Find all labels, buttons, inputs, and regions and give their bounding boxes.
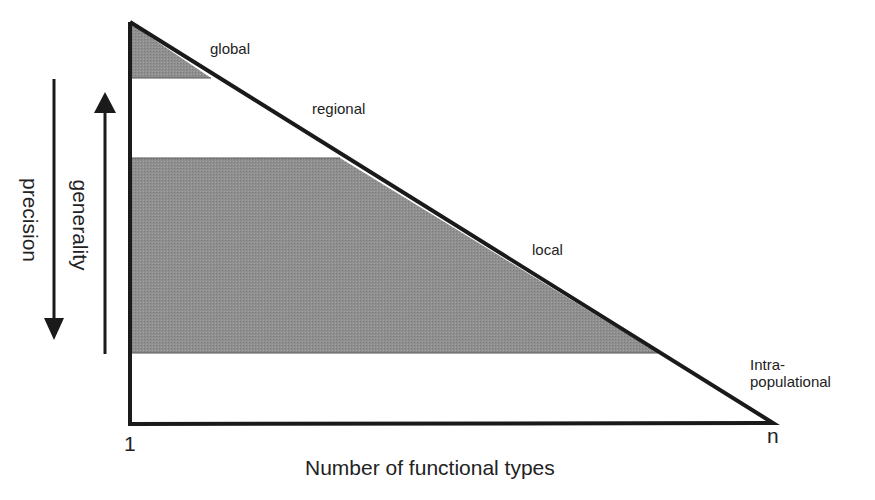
- scale-label-line1: Intra-: [750, 356, 831, 373]
- scale-label-local: local: [532, 241, 563, 258]
- precision-arrow-icon: [44, 79, 64, 340]
- x-axis-end-label: n: [767, 424, 779, 448]
- x-axis-title: Number of functional types: [305, 456, 555, 480]
- x-axis-start-label: 1: [124, 432, 136, 456]
- precision-label: precision: [18, 170, 42, 270]
- scale-label-intra-populational: Intra- populational: [750, 356, 831, 391]
- scale-label-global: global: [210, 40, 250, 57]
- generality-label: generality: [68, 175, 92, 275]
- diagram-canvas: [0, 0, 875, 500]
- scale-label-regional: regional: [312, 100, 365, 117]
- scale-label-line2: populational: [750, 373, 831, 390]
- generality-arrow-icon: [94, 92, 116, 354]
